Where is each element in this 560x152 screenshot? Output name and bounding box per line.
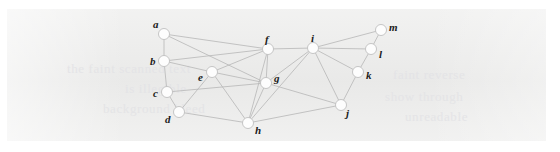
graph-node-label-d: d xyxy=(165,114,171,125)
graph-edge-e-h xyxy=(212,72,248,123)
graph-node-label-l: l xyxy=(379,49,382,60)
graph-node-g[interactable] xyxy=(261,78,272,89)
figure-root: the faint scanned textis illegiblebackgr… xyxy=(0,0,560,152)
graph-node-e[interactable] xyxy=(207,67,218,78)
graph-edge-i-l xyxy=(313,48,371,49)
graph-node-label-a: a xyxy=(153,19,159,30)
graph-edge-h-j xyxy=(248,105,341,123)
graph-edge-d-h xyxy=(179,112,248,123)
graph-node-label-e: e xyxy=(198,72,203,83)
graph-node-i[interactable] xyxy=(308,43,319,54)
graph-edge-c-g xyxy=(167,83,266,92)
graph-node-d[interactable] xyxy=(174,107,185,118)
graph-node-h[interactable] xyxy=(243,118,254,129)
graph-node-label-g: g xyxy=(274,73,280,84)
graph-node-label-i: i xyxy=(311,33,314,44)
graph-node-m[interactable] xyxy=(376,25,387,36)
graph-node-label-f: f xyxy=(265,34,269,45)
graph-edge-i-k xyxy=(313,48,358,72)
graph-node-label-b: b xyxy=(150,56,156,67)
graph-node-k[interactable] xyxy=(353,67,364,78)
graph-node-label-j: j xyxy=(346,108,349,119)
graph-edge-d-e xyxy=(179,72,212,112)
graph-node-label-h: h xyxy=(255,125,261,136)
graph-node-label-k: k xyxy=(366,70,372,81)
graph-node-b[interactable] xyxy=(159,56,170,67)
graph-node-l[interactable] xyxy=(366,44,377,55)
graph-node-f[interactable] xyxy=(263,44,274,55)
graph-node-label-c: c xyxy=(153,88,158,99)
graph-edge-e-g xyxy=(212,72,266,83)
graph-node-c[interactable] xyxy=(162,87,173,98)
graph-edge-b-e xyxy=(164,61,212,72)
node-layer xyxy=(159,25,387,129)
graph-node-label-m: m xyxy=(389,22,398,33)
graph-node-j[interactable] xyxy=(336,100,347,111)
graph-edge-g-j xyxy=(266,83,341,105)
graph-node-a[interactable] xyxy=(159,29,170,40)
graph-edge-i-j xyxy=(313,48,341,105)
graph-panel: the faint scanned textis illegiblebackgr… xyxy=(7,9,546,141)
graph-edge-f-i xyxy=(268,48,313,49)
